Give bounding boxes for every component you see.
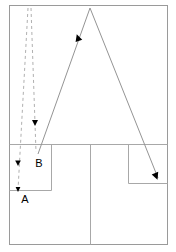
- marker-a-tip-arrowhead-icon: [16, 187, 21, 192]
- diagram-canvas: A B: [0, 0, 176, 252]
- marker-dashed-left-arrowhead-icon: [15, 161, 21, 167]
- solid-trajectory: [38, 8, 158, 178]
- right-inner-box: [129, 145, 168, 184]
- marker-descending-arrowhead-icon: [152, 172, 161, 181]
- label-b: B: [35, 157, 42, 169]
- left-inner-box: [10, 145, 52, 191]
- diagram-svg: A B: [0, 0, 176, 252]
- outer-frame: [10, 6, 168, 245]
- dashed-trajectory-right: [31, 8, 36, 152]
- label-a: A: [21, 193, 29, 205]
- marker-dashed-right-arrowhead-icon: [32, 120, 38, 126]
